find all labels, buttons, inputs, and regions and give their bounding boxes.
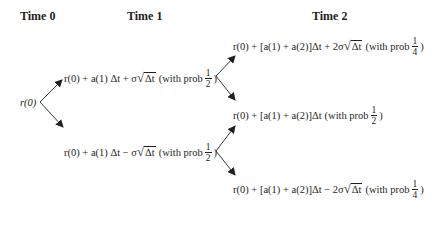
t2mid-prob: (with prob [325, 110, 369, 121]
node-time2-down: r(0) + [a(1) + a(2)]Δt − 2σ √Δt (with pr… [233, 177, 424, 201]
arrow-t1up-down [216, 76, 235, 100]
t1down-prob: (with prob [159, 147, 203, 158]
root-label: r(0) [20, 97, 36, 108]
sqrt-symbol: √Δt [137, 72, 156, 84]
t2up-prob: (with prob [365, 41, 409, 52]
sqrt-symbol: √Δt [137, 146, 156, 158]
sqrt-symbol: √Δt [344, 40, 363, 52]
t1down-expr: r(0) + a(1) Δt − σ [64, 147, 137, 158]
t2down-prob: (with prob [365, 184, 409, 195]
t2up-expr: r(0) + [a(1) + a(2)]Δt + 2σ [233, 41, 344, 52]
arrow-t1down-down [216, 151, 235, 175]
t1up-prob: (with prob [159, 73, 203, 84]
t2down-fraction: 14 [412, 179, 419, 200]
arrow-t1down-up [216, 126, 235, 151]
node-root: r(0) [20, 90, 36, 114]
t2mid-expr: r(0) + [a(1) + a(2)]Δt [233, 110, 322, 121]
node-time1-up: r(0) + a(1) Δt + σ √Δt (with prob 12 ) [64, 66, 217, 90]
node-time2-up: r(0) + [a(1) + a(2)]Δt + 2σ √Δt (with pr… [233, 34, 424, 58]
node-time1-down: r(0) + a(1) Δt − σ √Δt (with prob 12 ) [64, 140, 217, 164]
t1up-fraction: 12 [205, 68, 212, 89]
t2up-fraction: 14 [412, 36, 419, 57]
arrow-t1up-up [216, 56, 235, 76]
arrow-root-up [40, 80, 62, 102]
sqrt-symbol: √Δt [344, 183, 363, 195]
t1up-expr: r(0) + a(1) Δt + σ [64, 73, 137, 84]
node-time2-mid: r(0) + [a(1) + a(2)]Δt (with prob 12 ) [233, 103, 383, 127]
t2down-expr: r(0) + [a(1) + a(2)]Δt − 2σ [233, 184, 344, 195]
arrow-root-down [40, 102, 63, 127]
t1down-fraction: 12 [205, 142, 212, 163]
t2mid-fraction: 12 [371, 105, 378, 126]
